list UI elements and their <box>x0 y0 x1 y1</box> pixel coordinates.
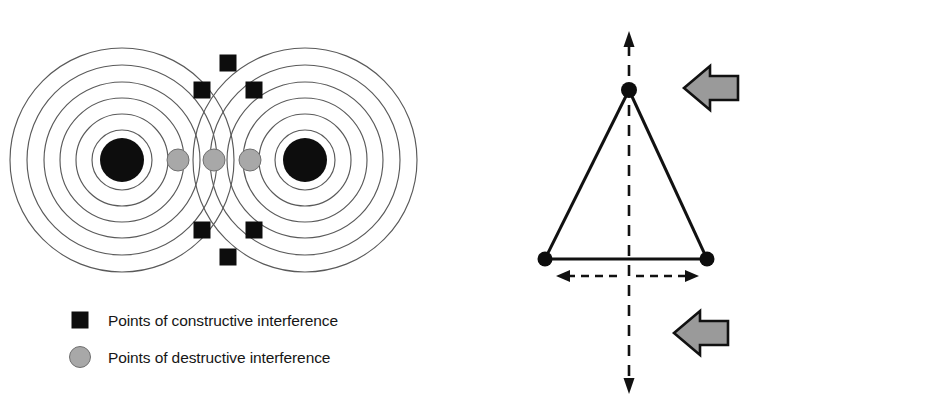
axis-callout-arrow-icon <box>674 311 728 355</box>
legend-item-constructive-label: Points of constructive interference <box>108 312 338 330</box>
leg-r2 <box>629 90 707 259</box>
destructive-interference-point <box>203 149 225 171</box>
right-projector <box>283 138 327 182</box>
equidistant-diagram-svg <box>470 0 937 406</box>
legend-item-destructive-label: Points of destructive interference <box>108 349 330 367</box>
constructive-interference-point <box>194 222 211 239</box>
constructive-interference-point <box>246 222 263 239</box>
p1-point <box>538 252 553 267</box>
destructive-interference-point <box>239 149 261 171</box>
left-projector <box>100 138 144 182</box>
two-source-interference-panel: Points of constructive interference Poin… <box>0 0 470 406</box>
p2-point <box>700 252 715 267</box>
constructive-interference-point <box>220 55 237 72</box>
constructive-marker-swatch <box>72 312 89 329</box>
destructive-marker-swatch <box>70 347 91 368</box>
destructive-points-group <box>167 149 261 171</box>
constructive-interference-point <box>246 82 263 99</box>
equidistant-diagram-panel: R1 R2 P1 P2 d Location equidistant from … <box>470 0 937 406</box>
axis-arrow-up-icon <box>624 31 635 47</box>
apex-point <box>621 82 637 98</box>
destructive-interference-point <box>167 149 189 171</box>
constructive-interference-point <box>194 82 211 99</box>
leg-r1 <box>545 90 629 259</box>
constructive-interference-point <box>220 249 237 266</box>
apex-callout-arrow-icon <box>684 66 738 110</box>
separation-arrow-right-icon <box>685 270 699 282</box>
interference-figure: Points of constructive interference Poin… <box>0 0 937 406</box>
axis-arrow-down-icon <box>624 378 635 394</box>
interference-pattern-svg <box>0 0 470 406</box>
separation-arrow-left-icon <box>556 270 570 282</box>
